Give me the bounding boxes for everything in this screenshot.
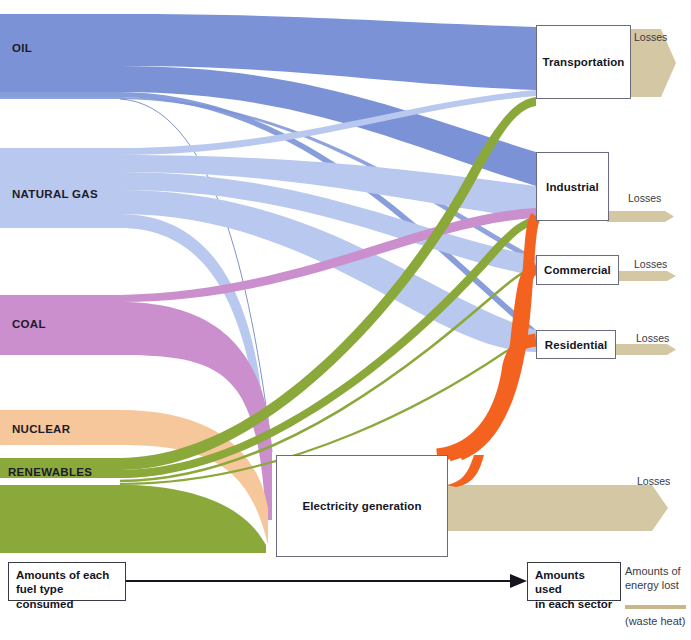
- caption-left: Amounts of each fuel type consumed: [8, 562, 126, 601]
- sector-label-commercial: Commercial: [544, 264, 611, 276]
- sector-box-transportation[interactable]: Transportation: [536, 25, 631, 99]
- sector-label-residential: Residential: [545, 339, 607, 351]
- hub-label-electricity-generation: Electricity generation: [302, 500, 421, 512]
- loss-label-electricity: Losses: [637, 475, 670, 487]
- source-label-natural-gas: NATURAL GAS: [12, 188, 98, 200]
- caption-right-note2: (waste heat): [625, 614, 686, 628]
- source-label-nuclear: NUCLEAR: [12, 423, 70, 435]
- caption-right-box: Amounts used in each sector: [527, 562, 621, 601]
- source-label-renewables: RENEWABLES: [8, 466, 92, 478]
- loss-label-residential: Losses: [636, 332, 669, 344]
- sector-box-residential[interactable]: Residential: [536, 330, 616, 359]
- loss-label-transportation: Losses: [634, 31, 667, 43]
- loss-label-commercial: Losses: [634, 258, 667, 270]
- sector-label-industrial: Industrial: [546, 181, 599, 193]
- caption-right-note: Amounts of energy lost: [625, 564, 681, 593]
- loss-arrow-residential: [614, 344, 676, 355]
- source-label-oil: OIL: [12, 42, 32, 54]
- loss-arrow-industrial: [607, 211, 674, 222]
- loss-label-industrial: Losses: [628, 192, 661, 204]
- source-label-coal: COAL: [12, 318, 46, 330]
- caption-arrow: [124, 574, 527, 588]
- sankey-diagram: OIL NATURAL GAS COAL NUCLEAR RENEWABLES …: [0, 0, 691, 640]
- sector-box-industrial[interactable]: Industrial: [536, 152, 609, 221]
- hub-box-electricity-generation[interactable]: Electricity generation: [276, 455, 448, 557]
- flow-renewables-electricity-lower: [0, 485, 266, 553]
- flow-electricity-losses: [446, 485, 668, 531]
- sector-box-commercial[interactable]: Commercial: [536, 255, 619, 285]
- loss-arrow-commercial: [617, 271, 676, 281]
- sector-label-transportation: Transportation: [543, 56, 625, 68]
